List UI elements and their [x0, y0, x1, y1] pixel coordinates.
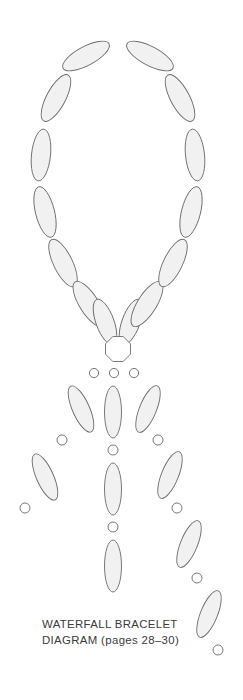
left-strand-seed-4 [20, 503, 30, 513]
right-strand-bead-1 [131, 383, 165, 436]
right-strand-seed-2 [153, 435, 163, 445]
right-strand [129, 368, 226, 655]
loop-bead-11 [175, 184, 206, 239]
loop-bead-2 [35, 71, 76, 126]
center-strand-bead-5 [105, 540, 122, 592]
right-strand-bead-5 [172, 518, 206, 571]
caption-line-pages: DIAGRAM (pages 28–30) [42, 633, 232, 649]
right-strand-seed-top [129, 368, 138, 377]
right-strand-seed-4 [172, 503, 182, 513]
loop-bead-3 [29, 128, 53, 182]
loop-bead-group [29, 35, 207, 347]
strand-group [20, 368, 226, 655]
loop-bead-14 [123, 35, 178, 76]
left-strand-seed-top [89, 368, 98, 377]
center-strand [105, 368, 122, 592]
left-strand-bead-3 [27, 451, 63, 504]
loop-bead-13 [159, 71, 200, 126]
clasp-group [106, 337, 131, 362]
loop-bead-10 [153, 235, 193, 290]
right-strand-bead-3 [153, 449, 187, 502]
diagram-caption: WATERFALL BRACELET DIAGRAM (pages 28–30) [42, 617, 232, 648]
left-strand-bead-1 [63, 383, 99, 436]
center-strand-bead-1 [105, 386, 122, 438]
left-strand [20, 368, 99, 513]
center-strand-seed-4 [108, 522, 118, 532]
center-strand-seed-2 [108, 445, 118, 455]
left-strand-seed-2 [57, 435, 67, 445]
loop-bead-12 [183, 128, 207, 182]
waterfall-bracelet-diagram [0, 0, 243, 700]
caption-line-title: WATERFALL BRACELET [42, 617, 232, 633]
right-strand-seed-6 [192, 573, 202, 583]
center-strand-seed-top [109, 368, 118, 377]
octagon-clasp-bead [106, 337, 131, 362]
loop-bead-1 [59, 35, 114, 76]
loop-bead-4 [29, 184, 60, 239]
center-strand-bead-3 [105, 463, 122, 515]
